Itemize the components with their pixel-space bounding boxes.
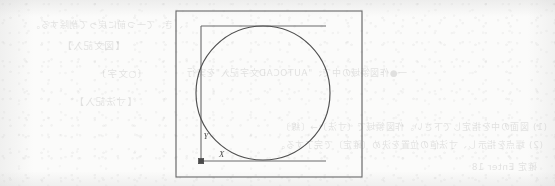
circle-shape [196,26,330,160]
x-axis-label: X [218,149,225,159]
origin-marker-square [199,159,204,164]
drawing-border-rect [176,11,362,177]
cad-diagram: X Y [0,0,555,186]
diagram-canvas: X Y [0,0,555,186]
scanned-page: 、き、て一つ前に戻って削除する。 【図文記入】 一●作図領域の中で、"AUTOC… [0,0,555,186]
